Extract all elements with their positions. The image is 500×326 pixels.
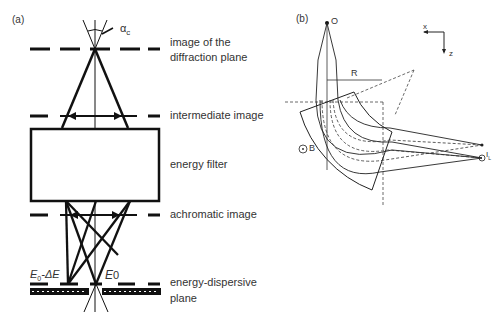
point-o-label: O — [331, 16, 338, 26]
field-b-label: B — [309, 143, 315, 153]
radius-label: R — [351, 68, 358, 78]
axis-z-label: z — [449, 49, 453, 58]
image-il-label: IL — [486, 150, 491, 161]
panel-b-diagram — [0, 0, 500, 326]
image-l-sub: L — [488, 155, 491, 161]
axis-x-label: x — [423, 22, 427, 31]
